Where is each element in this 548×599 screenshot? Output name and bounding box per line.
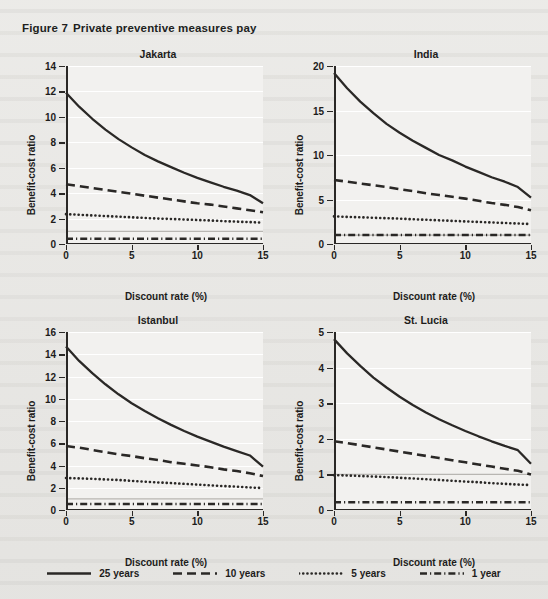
y-axis-tick (59, 142, 65, 143)
x-tick-label: 10 (460, 250, 471, 261)
y-tick-label: 12 (45, 371, 56, 382)
y-axis-label: Benefit-cost ratio (294, 110, 305, 240)
figure-title-text: Private preventive measures pay (73, 22, 257, 34)
x-tick-label: 10 (192, 250, 203, 261)
y-axis-tick (327, 368, 333, 369)
chart-panel-istanbul: IstanbulBenefit-cost ratioDiscount rate … (8, 312, 272, 570)
y-tick-label: 10 (45, 111, 56, 122)
series-line-5-years (334, 216, 531, 224)
x-tick-label: 0 (63, 516, 69, 527)
series-line-10-years (334, 180, 531, 210)
series-line-10-years (66, 184, 263, 212)
y-axis-tick (59, 219, 65, 220)
x-tick-label: 10 (192, 516, 203, 527)
y-axis-tick (327, 200, 333, 201)
legend-1-year-swatch (420, 568, 464, 579)
y-tick-label: 14 (45, 349, 56, 360)
y-tick-label: 3 (318, 398, 324, 409)
panel-title: Jakarta (8, 48, 272, 60)
panel-title: St. Lucia (276, 314, 540, 326)
figure-page: Figure 7Private preventive measures pay … (0, 0, 548, 599)
y-axis-label: Benefit-cost ratio (26, 376, 37, 506)
legend-5-years-swatch (299, 568, 343, 579)
plot-lines (66, 332, 263, 510)
y-axis-tick (59, 91, 65, 92)
series-line-5-years (334, 475, 531, 485)
panel-title: Istanbul (8, 314, 272, 326)
y-axis-label: Benefit-cost ratio (294, 376, 305, 506)
x-tick-label: 15 (257, 516, 268, 527)
y-tick-label: 0 (318, 505, 324, 516)
x-tick-label: 5 (397, 250, 403, 261)
chart-panel-jakarta: JakartaBenefit-cost ratioDiscount rate (… (8, 46, 272, 304)
x-tick-label: 15 (257, 250, 268, 261)
legend-10-years-label: 10 years (225, 568, 265, 579)
chart-panel-india: IndiaBenefit-cost ratioDiscount rate (%)… (276, 46, 540, 304)
y-axis-tick (59, 510, 65, 511)
y-tick-label: 4 (50, 188, 56, 199)
plot-lines (334, 332, 531, 510)
legend-5-years-label: 5 years (351, 568, 385, 579)
x-tick-label: 5 (129, 250, 135, 261)
y-tick-label: 5 (318, 194, 324, 205)
figure-title: Figure 7Private preventive measures pay (22, 22, 257, 34)
y-tick-label: 0 (50, 239, 56, 250)
y-tick-label: 8 (50, 137, 56, 148)
plot-area: 02468101214051015 (66, 66, 263, 244)
x-tick-label: 0 (331, 250, 337, 261)
x-axis (334, 509, 531, 511)
y-axis-tick (59, 244, 65, 245)
y-tick-label: 5 (318, 327, 324, 338)
y-tick-label: 14 (45, 61, 56, 72)
y-axis-tick (59, 466, 65, 467)
y-axis-label: Benefit-cost ratio (26, 110, 37, 240)
y-tick-label: 0 (318, 239, 324, 250)
legend-5-years: 5 years (299, 568, 385, 579)
panel-title: India (276, 48, 540, 60)
y-axis-tick (327, 439, 333, 440)
series-line-25-years (334, 73, 531, 198)
y-tick-label: 4 (50, 460, 56, 471)
y-axis (334, 66, 336, 244)
chart-legend: 25 years10 years5 years1 year (0, 558, 548, 588)
y-tick-label: 4 (318, 362, 324, 373)
y-axis-tick (327, 111, 333, 112)
y-axis-tick (59, 193, 65, 194)
y-axis-tick (59, 399, 65, 400)
y-axis-tick (59, 354, 65, 355)
x-tick-label: 15 (525, 250, 536, 261)
x-axis (66, 509, 263, 511)
y-axis-tick (327, 510, 333, 511)
plot-lines (334, 66, 531, 244)
figure-number: Figure 7 (22, 22, 68, 34)
x-tick-label: 0 (63, 250, 69, 261)
legend-25-years-label: 25 years (99, 568, 139, 579)
y-tick-label: 8 (50, 416, 56, 427)
y-tick-label: 0 (50, 505, 56, 516)
y-tick-label: 20 (313, 61, 324, 72)
x-tick-label: 10 (460, 516, 471, 527)
series-line-25-years (66, 93, 263, 204)
legend-1-year-label: 1 year (472, 568, 501, 579)
plot-area: 05101520051015 (334, 66, 531, 244)
x-tick-label: 15 (525, 516, 536, 527)
y-axis-tick (59, 332, 65, 333)
y-axis-tick (327, 155, 333, 156)
y-tick-label: 2 (50, 482, 56, 493)
y-tick-label: 1 (318, 469, 324, 480)
x-tick-label: 0 (331, 516, 337, 527)
y-axis-tick (327, 332, 333, 333)
x-tick-label: 5 (129, 516, 135, 527)
x-tick-label: 5 (397, 516, 403, 527)
y-axis-tick (59, 168, 65, 169)
y-axis-tick (59, 117, 65, 118)
plot-area: 0246810121416051015 (66, 332, 263, 510)
legend-25-years-swatch (47, 568, 91, 579)
x-axis (66, 243, 263, 245)
chart-panel-st-lucia: St. LuciaBenefit-cost ratioDiscount rate… (276, 312, 540, 570)
y-axis-tick (59, 66, 65, 67)
series-line-10-years (334, 441, 531, 474)
legend-10-years-swatch (173, 568, 217, 579)
y-axis-tick (59, 488, 65, 489)
legend-25-years: 25 years (47, 568, 139, 579)
